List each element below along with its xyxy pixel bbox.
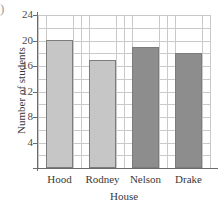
gridline-vertical [167, 15, 168, 168]
y-axis-tick [33, 117, 38, 118]
bar-rodney [89, 60, 116, 168]
y-axis-tick [33, 15, 38, 16]
x-axis-tick-label-nelson: Nelson [124, 172, 167, 186]
gridline-vertical [38, 15, 39, 168]
x-axis-tick-label-rodney: Rodney [81, 172, 124, 186]
bar-nelson [132, 47, 159, 168]
gridline-vertical [210, 15, 211, 168]
gridline-vertical [73, 15, 74, 168]
y-axis-tick [33, 66, 38, 67]
gridline-vertical [202, 15, 203, 168]
y-axis-title: Number of students [15, 26, 28, 156]
x-axis-title: House [38, 190, 210, 203]
gridline-vertical [116, 15, 117, 168]
bar-hood [46, 40, 73, 168]
x-axis-tick-label-hood: Hood [38, 172, 81, 186]
bar-drake [175, 53, 202, 168]
plot-area [38, 15, 210, 168]
bar-chart-figure: ) 4812162024 HoodRodneyNelsonDrake House… [0, 0, 224, 207]
gridline-vertical [124, 15, 125, 168]
x-axis-tick-label-drake: Drake [167, 172, 210, 186]
y-axis-tick [33, 143, 38, 144]
x-axis-tick-labels: HoodRodneyNelsonDrake [38, 172, 210, 188]
gridline-vertical [159, 15, 160, 168]
x-axis-line [33, 168, 218, 169]
y-axis-tick [33, 41, 38, 42]
y-axis-tick-label: 24 [1, 9, 33, 20]
y-axis-tick [33, 92, 38, 93]
gridline-vertical [81, 15, 82, 168]
